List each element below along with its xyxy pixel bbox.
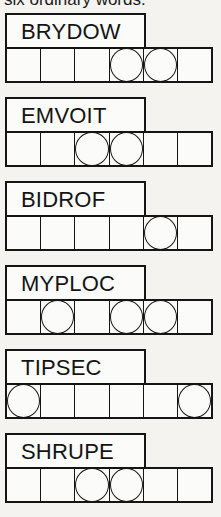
letter-box[interactable] — [7, 469, 41, 501]
answer-grid — [5, 299, 213, 335]
letter-box[interactable] — [110, 217, 144, 249]
letter-box[interactable] — [41, 133, 75, 165]
letter-box[interactable] — [7, 217, 41, 249]
circled-letter-box[interactable] — [110, 49, 144, 81]
jumble-puzzle-4: MYPLOC — [5, 265, 213, 336]
circled-letter-box[interactable] — [144, 49, 178, 81]
jumble-puzzle-6: SHRUPE — [5, 433, 213, 504]
circled-letter-box[interactable] — [144, 217, 178, 249]
letter-box[interactable] — [178, 49, 211, 81]
letter-box[interactable] — [178, 301, 211, 333]
letter-box[interactable] — [41, 217, 75, 249]
jumble-puzzle-2: EMVOIT — [5, 97, 213, 168]
letter-box[interactable] — [144, 133, 178, 165]
scrambled-word: EMVOIT — [5, 97, 146, 132]
scrambled-word: BIDROF — [5, 181, 146, 216]
answer-grid — [5, 467, 213, 503]
answer-grid — [5, 383, 213, 419]
circled-letter-box[interactable] — [7, 385, 41, 417]
scrambled-word: TIPSEC — [5, 349, 146, 384]
circled-letter-box[interactable] — [110, 133, 144, 165]
circled-letter-box[interactable] — [110, 469, 144, 501]
jumble-puzzle-3: BIDROF — [5, 181, 213, 252]
scrambled-word: MYPLOC — [5, 265, 146, 300]
answer-grid — [5, 47, 213, 83]
circled-letter-box[interactable] — [144, 301, 178, 333]
letter-box[interactable] — [75, 385, 109, 417]
letter-box[interactable] — [41, 385, 75, 417]
letter-box[interactable] — [178, 469, 211, 501]
letter-box[interactable] — [75, 217, 109, 249]
letter-box[interactable] — [7, 133, 41, 165]
jumble-puzzle-5: TIPSEC — [5, 349, 213, 420]
letter-box[interactable] — [178, 217, 211, 249]
letter-box[interactable] — [75, 301, 109, 333]
scrambled-word: SHRUPE — [5, 433, 146, 468]
scrambled-word: BRYDOW — [5, 13, 146, 48]
letter-box[interactable] — [41, 469, 75, 501]
letter-box[interactable] — [178, 133, 211, 165]
circled-letter-box[interactable] — [41, 301, 75, 333]
letter-box[interactable] — [7, 301, 41, 333]
circled-letter-box[interactable] — [75, 133, 109, 165]
instructions-text: six ordinary words. — [4, 0, 146, 8]
letter-box[interactable] — [7, 49, 41, 81]
answer-grid — [5, 215, 213, 251]
circled-letter-box[interactable] — [178, 385, 211, 417]
answer-grid — [5, 131, 213, 167]
letter-box[interactable] — [144, 385, 178, 417]
letter-box[interactable] — [75, 49, 109, 81]
letter-box[interactable] — [41, 49, 75, 81]
letter-box[interactable] — [110, 385, 144, 417]
letter-box[interactable] — [144, 469, 178, 501]
circled-letter-box[interactable] — [75, 469, 109, 501]
jumble-puzzle-1: BRYDOW — [5, 13, 213, 84]
circled-letter-box[interactable] — [110, 301, 144, 333]
